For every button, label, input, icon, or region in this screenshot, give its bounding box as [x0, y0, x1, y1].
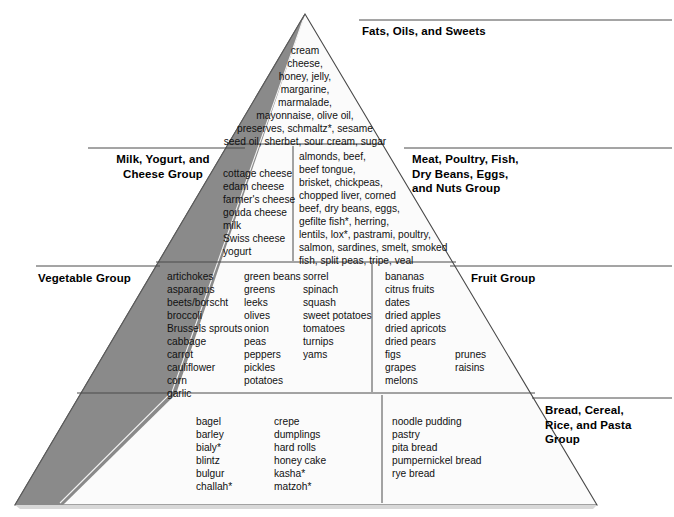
- food-pyramid-diagram: Fats, Oils, and Sweets Milk, Yogurt, and…: [0, 0, 674, 517]
- items-bread-col-1: bagel barley bialy* blintz bulgur challa…: [196, 415, 232, 493]
- items-vegetable-col-2: green beans greens leeks olives onion pe…: [244, 270, 301, 387]
- items-fruit-col-2: prunes raisins: [455, 348, 486, 374]
- items-milk-group: cottage cheese edam cheese farmer's chee…: [223, 167, 295, 258]
- label-fats-oils-sweets: Fats, Oils, and Sweets: [362, 24, 486, 39]
- label-bread-cereal-rice-pasta-group: Bread, Cereal, Rice, and Pasta Group: [545, 403, 632, 447]
- label-vegetable-group: Vegetable Group: [38, 271, 131, 286]
- items-vegetable-col-1: artichokes asparagus beets/borscht brocc…: [167, 270, 242, 400]
- label-milk-yogurt-cheese-group: Milk, Yogurt, and Cheese Group: [88, 152, 238, 181]
- items-bread-col-3: noodle pudding pastry pita bread pumpern…: [392, 415, 481, 480]
- items-fruit-col-1: bananas citrus fruits dates dried apples…: [385, 270, 446, 387]
- items-meat-group: almonds, beef, beef tongue, brisket, chi…: [299, 150, 447, 267]
- items-bread-col-2: crepe dumplings hard rolls honey cake ka…: [274, 415, 326, 493]
- pyramid-base-shadow: [15, 505, 597, 509]
- items-vegetable-col-3: sorrel spinach squash sweet potatoes tom…: [303, 270, 372, 361]
- items-fats-oils-sweets: cream cheese, honey, jelly, margarine, m…: [175, 44, 435, 148]
- label-fruit-group: Fruit Group: [471, 271, 535, 286]
